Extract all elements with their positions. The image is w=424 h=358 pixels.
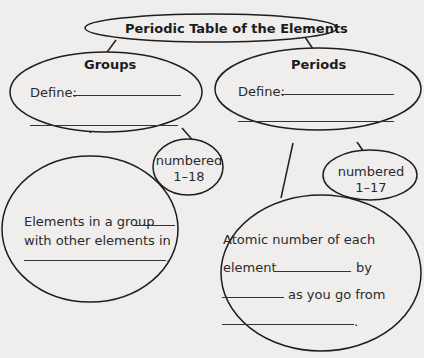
- periods-heading: Periods: [291, 57, 346, 72]
- periods-detail-blank-3[interactable]: [222, 324, 354, 325]
- groups-numbered-line1: numbered: [153, 153, 225, 168]
- periods-numbered-line2: 1–17: [325, 180, 417, 195]
- periods-define-blank-1[interactable]: [281, 94, 394, 95]
- periods-detail-line3-end: as you go from: [288, 287, 385, 302]
- periods-detail-blank-2[interactable]: [222, 297, 284, 298]
- periods-detail-line2-end: by: [356, 260, 372, 275]
- groups-detail-blank-2[interactable]: [24, 260, 166, 261]
- groups-detail-line2: with other elements in: [24, 233, 171, 248]
- groups-define-blank-1[interactable]: [73, 95, 181, 96]
- diagram-title: Periodic Table of the Elements: [125, 21, 297, 36]
- groups-detail-period: .: [166, 250, 170, 265]
- periods-numbered-line1: numbered: [325, 164, 417, 179]
- groups-heading: Groups: [84, 57, 136, 72]
- groups-detail-ellipse: [2, 156, 178, 302]
- groups-detail-blank-1[interactable]: [133, 225, 175, 226]
- periods-define-label: Define:: [238, 84, 285, 99]
- groups-define-blank-2[interactable]: [30, 125, 178, 126]
- groups-numbered-line2: 1–18: [153, 169, 225, 184]
- periods-detail-line1: Atomic number of each: [223, 232, 375, 247]
- groups-detail-line1: Elements in a group: [24, 214, 155, 229]
- periods-detail-line2-start: element: [223, 260, 277, 275]
- periods-define-blank-2[interactable]: [238, 121, 394, 122]
- groups-define-label: Define:: [30, 85, 77, 100]
- connector-periods-detail: [281, 143, 293, 198]
- periods-detail-period: .: [354, 314, 358, 329]
- periods-detail-blank-1[interactable]: [274, 271, 351, 272]
